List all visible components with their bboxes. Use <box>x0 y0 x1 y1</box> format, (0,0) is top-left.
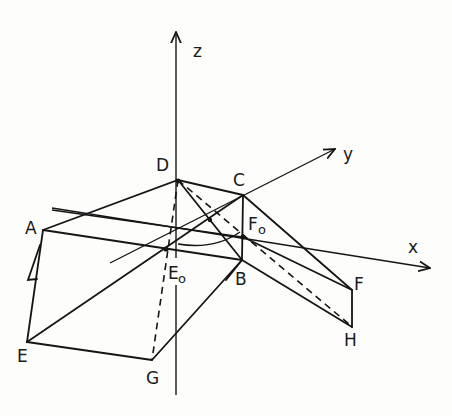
x-axis-label: x <box>408 237 418 257</box>
point-E0 <box>163 246 168 251</box>
label-C: C <box>233 170 245 190</box>
point-D <box>176 179 181 184</box>
label-D: D <box>156 155 169 175</box>
label-H: H <box>344 330 357 350</box>
y-axis-label: y <box>343 144 353 164</box>
label-F: F <box>354 274 364 294</box>
svg-text:o: o <box>258 222 266 237</box>
z-axis-label: z <box>193 41 202 61</box>
label-A: A <box>25 218 37 238</box>
label-G: G <box>146 368 159 388</box>
svg-text:o: o <box>178 271 186 286</box>
solid-edges <box>27 180 352 360</box>
point-F0 <box>240 234 245 239</box>
angle-arc <box>178 232 240 246</box>
hidden-edges <box>152 180 350 360</box>
svg-text:F: F <box>248 214 258 234</box>
label-E0: E o <box>168 263 186 286</box>
label-E: E <box>17 346 28 366</box>
geometry-diagram: z y x D C A B F H E G E o F o <box>0 0 452 416</box>
label-F0: F o <box>248 214 266 237</box>
label-B: B <box>235 269 247 289</box>
point-mid <box>208 218 212 222</box>
